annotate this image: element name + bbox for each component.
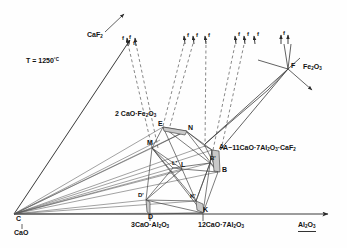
point-label-B: B xyxy=(222,166,227,173)
compound-label-3cao-al2o3: 3CaO·Al2O3 xyxy=(131,221,169,230)
arrow-label-f-3: f xyxy=(187,32,189,38)
point-label-L: L xyxy=(181,161,185,168)
point-label-E: E xyxy=(158,120,163,127)
F-node-spokes xyxy=(205,44,312,150)
point-label-M: M xyxy=(147,139,153,146)
point-label-N: N xyxy=(188,124,193,131)
temperature-condition: T = 1250°C xyxy=(26,57,59,64)
compound-label-2cao-fe2o3: 2 CaO·Fe2O3 xyxy=(115,110,156,119)
point-label-A: A xyxy=(219,143,224,150)
arrow-label-f-main: f xyxy=(133,40,135,46)
arrow-label-f-8: f xyxy=(257,31,259,37)
degree-unit: °C xyxy=(54,57,59,62)
dashed-line-M2 xyxy=(136,44,158,148)
field-EN xyxy=(163,127,187,135)
point-label-B-prime: B' xyxy=(210,155,216,161)
compound-label-12cao-7al2o3: 12CaO·7Al2O3 xyxy=(198,221,244,230)
axis-lines xyxy=(14,40,328,214)
field-AB xyxy=(212,150,220,172)
axis-label-al2o3: Al2O3 xyxy=(298,221,316,232)
caf2-axis-label: CaF2 xyxy=(87,31,103,40)
caf2-axis xyxy=(14,40,130,214)
dashed-line-N xyxy=(205,41,206,147)
arrow-label-f-9: f xyxy=(283,30,285,36)
arrow-label-f-2: f xyxy=(122,35,124,41)
axis-label-cao: CaO xyxy=(14,229,28,236)
arrow-label-f-1: f xyxy=(129,34,131,40)
phase-diagram-figure: T = 1250°C CaF2 2 CaO·Fe2O3 A−11CaO·7Al2… xyxy=(0,0,347,248)
dashed-tielines xyxy=(128,40,245,150)
caf2-direction-arrow xyxy=(105,14,124,32)
field-DD xyxy=(146,200,150,214)
dashed-line-M xyxy=(128,44,152,148)
point-label-D-prime: D' xyxy=(138,192,144,198)
diagram-canvas xyxy=(0,0,347,248)
axis-ticks xyxy=(150,214,203,221)
point-label-F: F xyxy=(291,62,295,69)
point-label-K: K xyxy=(203,206,208,213)
point-label-C: C xyxy=(16,215,21,222)
point-label-D: D xyxy=(148,213,153,220)
arrow-label-f-7: f xyxy=(247,31,249,37)
point-label-K-prime: K' xyxy=(190,193,196,199)
point-label-L-prime: L' xyxy=(172,160,177,166)
compound-label-fe2o3: Fe2O3 xyxy=(303,63,322,72)
arrow-label-f-5: f xyxy=(208,32,210,38)
arrow-label-f-4: f xyxy=(196,32,198,38)
compound-label-a-11cao-7al2o3-caf2: A−11CaO·7Al2O3·CaF2 xyxy=(223,144,296,153)
arrow-label-f-6: f xyxy=(238,31,240,37)
